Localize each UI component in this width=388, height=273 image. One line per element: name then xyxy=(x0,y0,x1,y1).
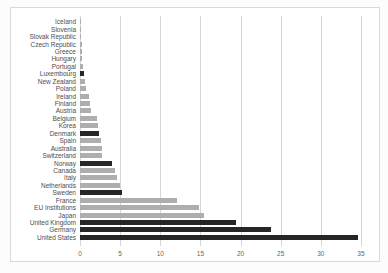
bar-track xyxy=(80,64,373,69)
category-label: Hungary xyxy=(11,55,80,62)
category-label: Australia xyxy=(11,145,80,152)
bar-row: Greece xyxy=(11,48,373,55)
bar xyxy=(80,19,81,24)
x-tick-label: 15 xyxy=(197,250,204,257)
bar-row: United States xyxy=(11,234,373,241)
category-label: Czech Republic xyxy=(11,41,80,48)
category-label: Sweden xyxy=(11,189,80,196)
x-tick-label: 25 xyxy=(277,250,284,257)
bar-row: United Kingdom xyxy=(11,219,373,226)
bar xyxy=(80,220,236,225)
bar xyxy=(80,71,84,76)
category-label: Poland xyxy=(11,85,80,92)
bar xyxy=(80,190,122,195)
bar-row: Slovenia xyxy=(11,25,373,32)
category-label: Netherlands xyxy=(11,182,80,189)
bar-track xyxy=(80,161,373,166)
bar-row: Italy xyxy=(11,174,373,181)
bar-row: Germany xyxy=(11,226,373,233)
bar xyxy=(80,86,86,91)
bar-row: Slovak Republic xyxy=(11,33,373,40)
bar-row: Ireland xyxy=(11,92,373,99)
category-label: Spain xyxy=(11,137,80,144)
bar-track xyxy=(80,146,373,151)
category-label: Iceland xyxy=(11,18,80,25)
bar-row: Australia xyxy=(11,144,373,151)
category-label: EU Institutions xyxy=(11,204,80,211)
x-tick-label: 20 xyxy=(237,250,244,257)
bar-track xyxy=(80,183,373,188)
bar-track xyxy=(80,153,373,158)
bar-track xyxy=(80,56,373,61)
category-label: Austria xyxy=(11,107,80,114)
bar-row: Hungary xyxy=(11,55,373,62)
bar-row: Denmark xyxy=(11,130,373,137)
category-label: Slovenia xyxy=(11,26,80,33)
category-label: Ireland xyxy=(11,93,80,100)
bar-track xyxy=(80,71,373,76)
bar-track xyxy=(80,198,373,203)
bar-row: France xyxy=(11,197,373,204)
category-label: Slovak Republic xyxy=(11,33,80,40)
bar xyxy=(80,168,115,173)
bar-track xyxy=(80,116,373,121)
bar xyxy=(80,116,97,121)
bar xyxy=(80,123,98,128)
category-label: United Kingdom xyxy=(11,219,80,226)
category-label: Portugal xyxy=(11,63,80,70)
bar xyxy=(80,64,83,69)
bar xyxy=(80,34,81,39)
category-label: Belgium xyxy=(11,115,80,122)
bar-track xyxy=(80,131,373,136)
bar xyxy=(80,153,102,158)
bar-row: Spain xyxy=(11,137,373,144)
bar xyxy=(80,138,101,143)
category-label: Korea xyxy=(11,122,80,129)
bar xyxy=(80,175,117,180)
bar-rows: IcelandSloveniaSlovak RepublicCzech Repu… xyxy=(11,18,373,241)
bar-track xyxy=(80,220,373,225)
bar xyxy=(80,49,82,54)
bar-track xyxy=(80,42,373,47)
bar xyxy=(80,183,120,188)
bar xyxy=(80,198,177,203)
bar xyxy=(80,213,204,218)
category-label: Denmark xyxy=(11,130,80,137)
category-label: Norway xyxy=(11,160,80,167)
bar-row: Portugal xyxy=(11,63,373,70)
category-label: Luxembourg xyxy=(11,70,80,77)
x-tick-label: 10 xyxy=(157,250,164,257)
bar-row: Canada xyxy=(11,167,373,174)
bar-row: Netherlands xyxy=(11,182,373,189)
bar-row: Norway xyxy=(11,159,373,166)
x-tick-label: 35 xyxy=(357,250,364,257)
bar-track xyxy=(80,27,373,32)
bar-track xyxy=(80,101,373,106)
bar xyxy=(80,131,99,136)
bar-row: EU Institutions xyxy=(11,204,373,211)
bar-row: Korea xyxy=(11,122,373,129)
bar-row: Switzerland xyxy=(11,152,373,159)
category-label: Canada xyxy=(11,167,80,174)
bar-track xyxy=(80,168,373,173)
bar-row: Iceland xyxy=(11,18,373,25)
category-label: United States xyxy=(11,234,80,241)
bar-row: Czech Republic xyxy=(11,40,373,47)
bar-row: Japan xyxy=(11,211,373,218)
bar-track xyxy=(80,205,373,210)
bar xyxy=(80,227,271,232)
bar xyxy=(80,42,82,47)
bar-track xyxy=(80,138,373,143)
bar xyxy=(80,79,85,84)
bar-track xyxy=(80,190,373,195)
x-axis: 05101520253035 xyxy=(80,250,373,260)
bar xyxy=(80,108,91,113)
bar-row: Poland xyxy=(11,85,373,92)
bar-row: Belgium xyxy=(11,115,373,122)
category-label: Switzerland xyxy=(11,152,80,159)
category-label: Greece xyxy=(11,48,80,55)
bar-track xyxy=(80,86,373,91)
bar xyxy=(80,27,81,32)
bar-row: Finland xyxy=(11,100,373,107)
bar xyxy=(80,94,89,99)
